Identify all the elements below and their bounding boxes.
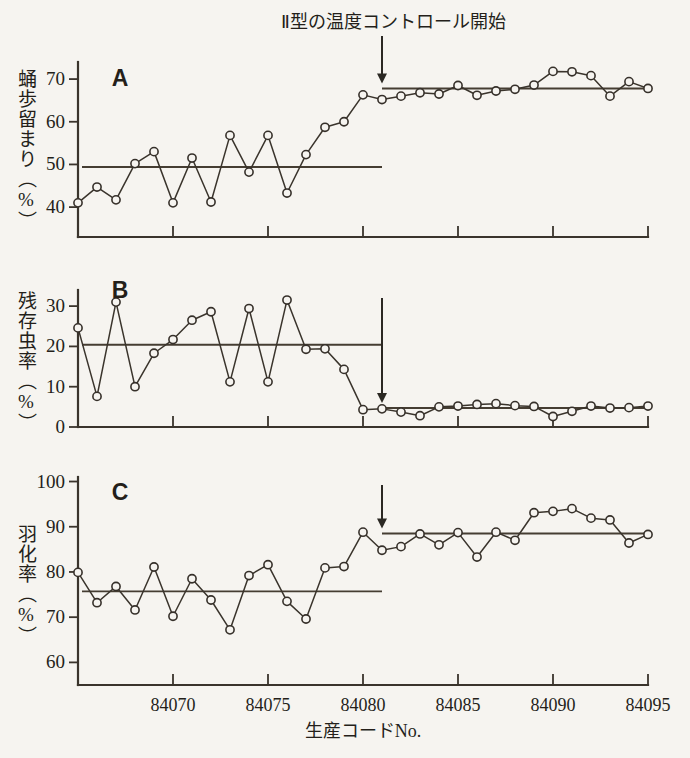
data-point <box>511 85 519 93</box>
data-point <box>435 90 443 98</box>
data-point <box>625 539 633 547</box>
data-point <box>93 599 101 607</box>
panel-b: 0102030B <box>46 277 652 437</box>
data-point <box>245 168 253 176</box>
data-point <box>625 78 633 86</box>
data-point <box>435 403 443 411</box>
data-point <box>207 198 215 206</box>
data-point <box>587 72 595 80</box>
panels-group: 40506070A0102030B60708090100C84070840758… <box>37 36 671 741</box>
data-point <box>112 196 120 204</box>
data-point <box>359 406 367 414</box>
x-axis-title: 生産コードNo. <box>305 721 422 741</box>
data-point <box>226 131 234 139</box>
data-point <box>264 561 272 569</box>
y-tick-label: 60 <box>46 111 65 132</box>
data-point <box>340 118 348 126</box>
panel-a: 40506070A <box>46 36 652 237</box>
data-point <box>397 408 405 416</box>
panel-letter: B <box>112 277 129 303</box>
data-point <box>226 626 234 634</box>
x-tick-label: 84090 <box>531 695 576 715</box>
data-point <box>207 308 215 316</box>
data-point <box>150 148 158 156</box>
data-point <box>568 407 576 415</box>
data-point <box>397 543 405 551</box>
y-tick-label: 70 <box>46 606 65 627</box>
data-point <box>492 400 500 408</box>
data-point <box>150 563 158 571</box>
y-tick-label: 20 <box>46 335 65 356</box>
data-point <box>378 405 386 413</box>
intervention-arrow-head <box>377 73 387 83</box>
data-point <box>131 383 139 391</box>
data-point <box>644 402 652 410</box>
data-point <box>131 159 139 167</box>
data-point <box>150 349 158 357</box>
data-point <box>264 131 272 139</box>
y-tick-label: 0 <box>56 416 66 437</box>
data-point <box>511 402 519 410</box>
y-tick-label: 10 <box>46 376 65 397</box>
data-point <box>245 571 253 579</box>
data-point <box>264 378 272 386</box>
data-point <box>568 68 576 76</box>
y-tick-label: 70 <box>46 68 65 89</box>
data-point <box>112 582 120 590</box>
data-point <box>473 553 481 561</box>
figure-page: 蛹歩留まり（%） 残存虫率（%） 羽化率（%） Ⅱ型の温度コントロール開始 40… <box>0 0 690 758</box>
data-point <box>188 154 196 162</box>
data-point <box>473 400 481 408</box>
data-point <box>321 345 329 353</box>
data-point <box>644 84 652 92</box>
data-point <box>74 324 82 332</box>
data-point <box>416 530 424 538</box>
data-point <box>169 199 177 207</box>
data-point <box>188 316 196 324</box>
data-point <box>549 67 557 75</box>
data-point <box>397 92 405 100</box>
data-point <box>606 92 614 100</box>
data-point <box>321 564 329 572</box>
y-tick-label: 30 <box>46 295 65 316</box>
data-point <box>416 89 424 97</box>
data-point <box>226 378 234 386</box>
data-point <box>93 392 101 400</box>
data-point <box>416 412 424 420</box>
data-point <box>131 606 139 614</box>
panel-b-series-line <box>78 300 648 416</box>
figure-canvas: Ⅱ型の温度コントロール開始 40506070A0102030B607080901… <box>0 0 690 758</box>
data-point <box>587 402 595 410</box>
data-point <box>492 87 500 95</box>
data-point <box>606 404 614 412</box>
data-point <box>549 507 557 515</box>
y-tick-label: 100 <box>37 471 66 492</box>
data-point <box>359 528 367 536</box>
panel-c-series-line <box>78 509 648 630</box>
y-tick-label: 40 <box>46 196 65 217</box>
data-point <box>93 183 101 191</box>
data-point <box>530 509 538 517</box>
data-point <box>492 528 500 536</box>
data-point <box>473 91 481 99</box>
intervention-annotation: Ⅱ型の温度コントロール開始 <box>281 12 506 32</box>
panel-letter: A <box>112 65 129 91</box>
data-point <box>302 615 310 623</box>
data-point <box>454 402 462 410</box>
data-point <box>454 529 462 537</box>
data-point <box>302 345 310 353</box>
y-tick-label: 60 <box>46 651 65 672</box>
intervention-arrow-head <box>377 393 387 403</box>
data-point <box>644 530 652 538</box>
data-point <box>530 81 538 89</box>
data-point <box>378 546 386 554</box>
panel-c: 60708090100C <box>37 471 653 685</box>
data-point <box>549 412 557 420</box>
y-tick-label: 50 <box>46 153 65 174</box>
data-point <box>245 304 253 312</box>
x-tick-label: 84075 <box>246 695 291 715</box>
data-point <box>169 612 177 620</box>
data-point <box>283 296 291 304</box>
panel-letter: C <box>112 479 129 505</box>
intervention-annotation-text: Ⅱ型の温度コントロール開始 <box>281 12 506 32</box>
